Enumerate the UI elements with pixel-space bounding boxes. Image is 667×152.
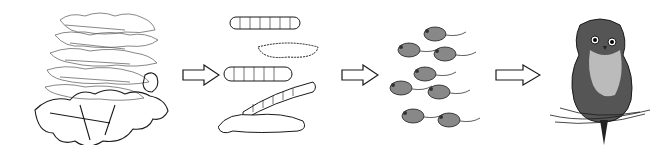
owl-illustration: Owl	[545, 10, 655, 150]
leaves-illustration: Leaves	[25, 5, 175, 145]
arrow-right-icon	[495, 64, 541, 86]
caterpillar-icon	[218, 12, 328, 142]
food-chain-diagram: Leaves Caterpillars	[0, 0, 667, 152]
caterpillars-illustration: Caterpillars	[218, 12, 328, 142]
leaf-icon	[25, 5, 175, 145]
mice-illustration: Mice	[385, 25, 485, 130]
arrow-right-icon	[341, 64, 379, 86]
owl-icon	[545, 10, 655, 150]
arrow-right-icon	[182, 64, 220, 86]
mouse-icon	[385, 25, 485, 130]
